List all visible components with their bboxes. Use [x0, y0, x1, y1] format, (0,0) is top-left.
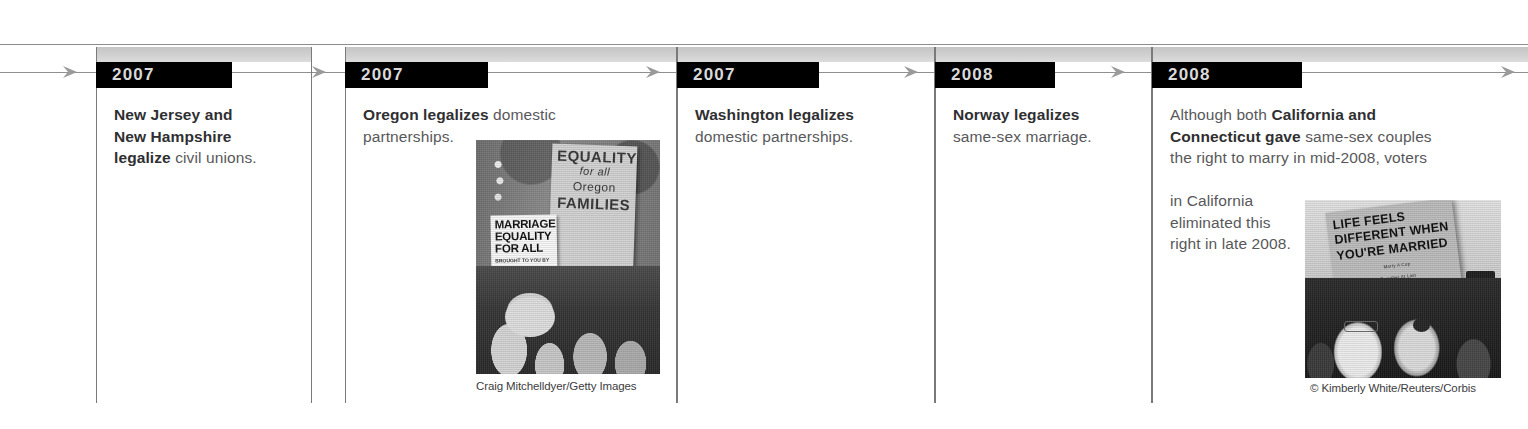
entry-5-plain-1: Although both: [1170, 106, 1271, 123]
entry-5-plain-3: the right to marry in mid-2008, voters: [1170, 149, 1427, 166]
entry-2-bold-1: Oregon legalizes: [363, 106, 489, 123]
entry-divider-left: [345, 47, 346, 403]
year-label: 2007: [345, 62, 488, 88]
top-rule: [0, 44, 1528, 45]
entry-5-text: Although both California and Connecticut…: [1170, 104, 1520, 169]
entry-4-bold-1: Norway legalizes: [953, 106, 1080, 123]
entry-3-plain-2: domestic partnerships.: [695, 128, 853, 145]
entry-1-bold-1: New Jersey and: [114, 106, 233, 123]
entry-divider-left: [1152, 47, 1153, 403]
entry-top-band: [935, 47, 1152, 62]
entry-5-plain-4: in California: [1170, 192, 1253, 209]
entry-top-band: [96, 47, 312, 62]
entry-2-plain-1: domestic: [489, 106, 556, 123]
entry-3-bold-1: Washington legalizes: [695, 106, 854, 123]
entry-5-text-wrap: in California eliminated this right in l…: [1170, 190, 1300, 255]
entry-5-plain-6: right in late 2008.: [1170, 235, 1291, 252]
entry-4-text: Norway legalizes same-sex marriage.: [953, 104, 1153, 147]
entry-5-bold-1: California and: [1271, 106, 1376, 123]
arrow-right-icon: [311, 62, 333, 82]
entry-2-photo-credit: Craig Mitchelldyer/Getty Images: [476, 380, 637, 392]
entry-divider-left: [96, 47, 97, 403]
timeline-entry-4: 2008: [935, 47, 1152, 403]
arrow-right-icon: [62, 62, 84, 82]
entry-divider-left: [677, 47, 678, 403]
entry-1-text: New Jersey and New Hampshire legalize ci…: [114, 104, 314, 169]
entry-1-bold-2: New Hampshire: [114, 128, 232, 145]
entry-4-plain-2: same-sex marriage.: [953, 128, 1092, 145]
entry-5-plain-2: same-sex couples: [1301, 128, 1432, 145]
year-label: 2007: [677, 62, 819, 88]
timeline-figure: 2007 New Jersey and New Hampshire legali…: [0, 0, 1528, 429]
entry-5-photo: LIFE FEELS DIFFERENT WHEN YOU'RE MARRIED…: [1305, 200, 1501, 378]
entry-5-bold-2: Connecticut gave: [1170, 128, 1301, 145]
entry-top-band: [1152, 47, 1528, 62]
entry-divider-right: [311, 47, 312, 403]
entry-top-band: [345, 47, 677, 62]
year-label: 2008: [935, 62, 1055, 88]
photo-grain-overlay: [476, 140, 660, 374]
entry-5-plain-5: eliminated this: [1170, 214, 1271, 231]
year-label: 2008: [1152, 62, 1302, 88]
year-label: 2007: [96, 62, 232, 88]
entry-2-plain-2: partnerships.: [363, 128, 454, 145]
entry-2-photo: EQUALITY for all Oregon FAMILIES MARRIAG…: [476, 140, 660, 374]
entry-divider-left: [935, 47, 936, 403]
entry-top-band: [677, 47, 935, 62]
entry-5-photo-credit: © Kimberly White/Reuters/Corbis: [1310, 382, 1476, 394]
entry-1-bold-3: legalize: [114, 149, 171, 166]
timeline-entry-1: 2007: [96, 47, 312, 403]
photo-grain-overlay: [1305, 200, 1501, 378]
entry-3-text: Washington legalizes domestic partnershi…: [695, 104, 935, 147]
timeline-entry-3: 2007: [677, 47, 935, 403]
entry-1-plain-3: civil unions.: [171, 149, 257, 166]
